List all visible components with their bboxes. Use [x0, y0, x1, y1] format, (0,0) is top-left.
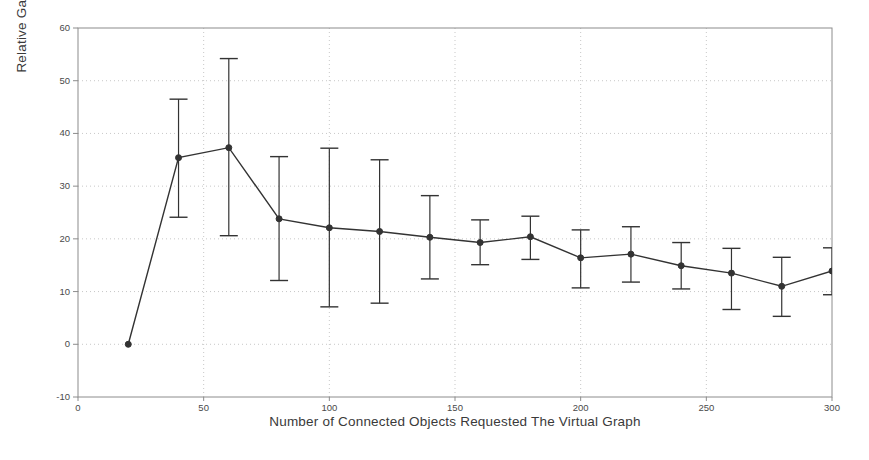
- chart-figure: Relative Gain (%) Number of Connected Ob…: [0, 0, 869, 460]
- y-tick-label: 30: [32, 180, 70, 191]
- x-tick-label: 250: [686, 402, 726, 413]
- x-tick-label: 0: [58, 402, 98, 413]
- y-tick-label: 0: [32, 338, 70, 349]
- data-point-marker: [628, 251, 634, 257]
- x-tick-label: 150: [435, 402, 475, 413]
- data-point-marker: [427, 234, 433, 240]
- data-point-marker: [829, 268, 835, 274]
- data-point-marker: [779, 283, 785, 289]
- data-point-marker: [527, 234, 533, 240]
- y-axis-label: Relative Gain (%): [14, 0, 29, 128]
- plot-canvas: [0, 0, 869, 460]
- data-point-marker: [326, 225, 332, 231]
- x-tick-label: 50: [184, 402, 224, 413]
- data-point-marker: [578, 255, 584, 261]
- x-tick-label: 300: [812, 402, 852, 413]
- y-tick-label: 10: [32, 286, 70, 297]
- y-tick-label: 60: [32, 22, 70, 33]
- x-axis-label: Number of Connected Objects Requested Th…: [78, 414, 832, 429]
- data-point-marker: [125, 341, 131, 347]
- y-tick-label: 20: [32, 233, 70, 244]
- data-point-marker: [377, 228, 383, 234]
- data-point-marker: [226, 145, 232, 151]
- data-point-marker: [678, 263, 684, 269]
- y-tick-label: -10: [32, 391, 70, 402]
- y-tick-label: 50: [32, 75, 70, 86]
- data-point-marker: [728, 270, 734, 276]
- y-tick-label: 40: [32, 127, 70, 138]
- data-point-marker: [477, 240, 483, 246]
- series-group: [125, 59, 841, 348]
- data-point-marker: [276, 216, 282, 222]
- x-tick-label: 200: [561, 402, 601, 413]
- x-tick-label: 100: [309, 402, 349, 413]
- data-point-marker: [176, 155, 182, 161]
